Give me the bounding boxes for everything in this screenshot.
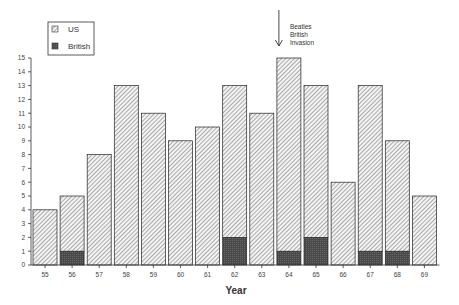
bar-us [114,86,138,265]
legend-swatch-us [52,26,58,32]
bar-british [358,251,382,265]
x-tick-label: 55 [41,271,49,278]
bar-us [141,113,165,265]
bar-us [331,182,355,265]
y-tick-label: 13 [18,82,26,89]
bar-us [223,86,247,238]
bar-british [223,237,247,265]
annotation-text-line: British [290,31,308,38]
x-tick-label: 56 [68,271,76,278]
y-tick-label: 1 [21,248,25,255]
x-tick-label: 69 [421,271,429,278]
bar-british [385,251,409,265]
bar-us [33,210,57,265]
x-tick-label: 63 [258,271,266,278]
y-tick-label: 12 [18,96,26,103]
y-tick-label: 4 [21,206,25,213]
legend-label-british: British [68,42,90,51]
x-tick-label: 61 [204,271,212,278]
x-tick-label: 66 [339,271,347,278]
legend: US British [48,22,94,55]
bar-us [250,113,274,265]
y-tick-label: 14 [18,68,26,75]
x-tick-label: 60 [177,271,185,278]
stacked-bar-chart: US British Beatles British Invasion 0123… [0,0,459,305]
bar-us [385,141,409,251]
y-tick-label: 3 [21,220,25,227]
bars [33,58,436,265]
bar-us [169,141,193,265]
y-tick-label: 8 [21,151,25,158]
x-tick-label: 67 [367,271,375,278]
bar-us [196,127,220,265]
bar-us [87,155,111,265]
bar-british [304,237,328,265]
y-tick-label: 2 [21,234,25,241]
x-tick-label: 59 [150,271,158,278]
y-tick-label: 7 [21,165,25,172]
annotation-text-line: Beatles [290,23,312,30]
bar-us [60,196,84,251]
legend-label-us: US [68,25,79,34]
y-tick-label: 11 [18,110,25,117]
x-tick-label: 68 [394,271,402,278]
bar-us [277,58,301,251]
bar-us [304,86,328,238]
annotation-text-line: Invasion [290,39,315,46]
x-axis-title: Year [225,285,246,296]
annotation: Beatles British Invasion [275,10,314,46]
y-tick-label: 5 [21,192,25,199]
x-tick-label: 64 [285,271,293,278]
bar-british [60,251,84,265]
y-tick-label: 10 [18,123,26,130]
y-tick-label: 6 [21,179,25,186]
x-tick-label: 65 [312,271,320,278]
x-tick-label: 62 [231,271,239,278]
legend-swatch-british [52,43,58,49]
y-tick-label: 0 [21,261,25,268]
bar-us [358,86,382,252]
x-tick-label: 57 [96,271,104,278]
y-tick-label: 9 [21,137,25,144]
y-tick-label: 15 [18,54,26,61]
y-axis: 0123456789101112131415 [18,54,31,268]
bar-british [277,251,301,265]
x-tick-label: 58 [123,271,131,278]
x-axis: 555657585960616263646566676869 [31,265,440,278]
bar-us [412,196,436,265]
